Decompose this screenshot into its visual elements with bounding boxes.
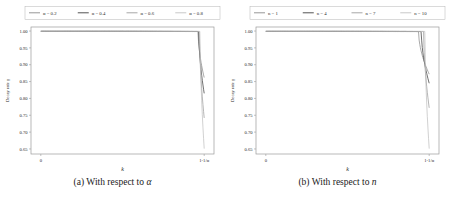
plot-frame [31, 27, 214, 154]
caption-a: (a) With respect to α [74, 177, 152, 187]
figure-container: α = 0.2α = 0.4α = 0.6α = 0.81.000.950.90… [0, 0, 450, 210]
y-tick-label: 0.95 [244, 46, 253, 51]
y-tick-label: 1.00 [244, 29, 253, 34]
y-axis-label: Decay rate γ [230, 79, 235, 102]
y-tick-label: 0.70 [19, 130, 28, 135]
plot-panel-n: n = 1n = 4n = 7n = 101.000.950.900.850.8… [225, 0, 450, 176]
y-tick-label: 0.80 [244, 96, 253, 101]
curve-0-3 [41, 31, 204, 148]
y-tick-label: 0.85 [19, 79, 28, 84]
y-tick-label: 0.65 [19, 147, 28, 152]
caption-a-symbol: α [146, 177, 151, 187]
y-tick-label: 0.95 [19, 46, 28, 51]
y-tick-label: 0.65 [244, 147, 253, 152]
x-tick-label: 1-1/α [199, 158, 209, 163]
x-tick-label: 1-1/α [424, 158, 434, 163]
legend-label-0-0: α = 0.2 [43, 11, 57, 16]
caption-b-symbol: n [372, 177, 377, 187]
curve-1-3 [266, 31, 429, 148]
plot-panel-alpha: α = 0.2α = 0.4α = 0.6α = 0.81.000.950.90… [0, 0, 225, 176]
curve-1-1 [266, 31, 429, 83]
curve-0-1 [41, 31, 204, 93]
x-tick-label: 0 [40, 158, 43, 163]
y-tick-label: 0.90 [19, 62, 28, 67]
caption-a-prefix: (a) [74, 177, 85, 187]
x-axis-label: k [346, 166, 349, 172]
curve-0-2 [41, 31, 204, 118]
legend-label-1-3: n = 10 [414, 11, 427, 16]
legend-label-0-2: α = 0.6 [141, 11, 155, 16]
legend-label-1-0: n = 1 [268, 11, 279, 16]
curve-0-0 [41, 31, 204, 77]
y-tick-label: 1.00 [19, 29, 28, 34]
legend-label-0-1: α = 0.4 [92, 11, 106, 16]
caption-b: (b) With respect to n [298, 177, 376, 187]
legend-label-1-2: n = 7 [366, 11, 377, 16]
y-tick-label: 0.85 [244, 79, 253, 84]
chart-n: n = 1n = 4n = 7n = 101.000.950.900.850.8… [225, 0, 450, 176]
y-tick-label: 0.70 [244, 130, 253, 135]
caption-b-prefix: (b) [298, 177, 309, 187]
plot-frame [256, 27, 439, 154]
caption-b-text: With respect to [312, 177, 370, 187]
y-tick-label: 0.75 [244, 113, 253, 118]
y-axis-label: Decay rate γ [5, 79, 10, 102]
legend-label-1-1: n = 4 [317, 11, 328, 16]
y-tick-label: 0.90 [244, 62, 253, 67]
subfigure-b: n = 1n = 4n = 7n = 101.000.950.900.850.8… [225, 0, 450, 210]
chart-alpha: α = 0.2α = 0.4α = 0.6α = 0.81.000.950.90… [0, 0, 225, 176]
y-tick-label: 0.75 [19, 113, 28, 118]
curve-1-2 [266, 31, 429, 108]
legend-label-0-3: α = 0.8 [189, 11, 203, 16]
curve-1-0 [266, 31, 429, 74]
caption-a-text: With respect to [86, 177, 144, 187]
subfigure-a: α = 0.2α = 0.4α = 0.6α = 0.81.000.950.90… [0, 0, 225, 210]
x-tick-label: 0 [265, 158, 268, 163]
x-axis-label: k [121, 166, 124, 172]
y-tick-label: 0.80 [19, 96, 28, 101]
